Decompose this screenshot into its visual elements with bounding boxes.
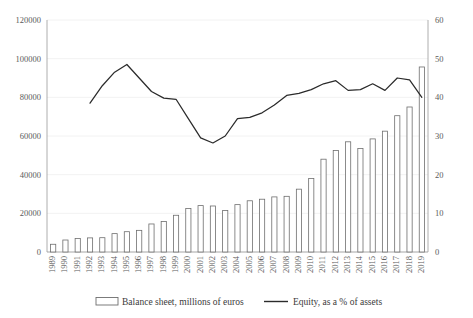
x-tick-label: 1998: [158, 256, 168, 273]
x-tick-label: 1995: [121, 256, 131, 273]
x-tick-label: 2017: [391, 256, 401, 273]
chart-legend: Balance sheet, millions of euros Equity,…: [96, 297, 382, 307]
x-axis-tick-labels: 1989199019911992199319941995199619971998…: [47, 255, 426, 273]
bar: [382, 131, 387, 252]
bar: [395, 116, 400, 252]
bar: [161, 221, 166, 252]
bar: [321, 159, 326, 252]
bar: [358, 149, 363, 252]
x-tick-label: 2003: [219, 256, 229, 273]
x-tick-label: 2011: [317, 256, 327, 273]
secondary-y-tick-label: 40: [435, 92, 444, 102]
bar: [247, 201, 252, 252]
secondary-y-tick-label: 10: [435, 208, 444, 218]
x-tick-label: 1996: [133, 256, 143, 273]
x-tick-label: 2004: [231, 255, 241, 273]
legend-label-equity: Equity, as a % of assets: [293, 297, 382, 307]
x-tick-label: 2010: [305, 256, 315, 273]
x-tick-label: 2013: [342, 256, 352, 273]
bar: [333, 151, 338, 253]
bar: [223, 210, 228, 252]
x-tick-label: 1992: [84, 256, 94, 273]
bar: [87, 238, 92, 252]
combo-chart: 020000400006000080000100000120000 010203…: [0, 0, 473, 318]
bar: [149, 224, 154, 252]
bar: [112, 234, 117, 252]
x-tick-label: 2012: [330, 256, 340, 273]
x-tick-label: 2001: [195, 256, 205, 273]
bar: [346, 142, 351, 252]
bar: [296, 189, 301, 252]
x-tick-label: 1994: [109, 255, 119, 273]
bar: [173, 215, 178, 252]
x-tick-label: 2018: [404, 256, 414, 273]
y-tick-label: 80000: [20, 92, 41, 102]
y-tick-label: 60000: [20, 131, 41, 141]
secondary-y-axis-tick-labels: 0102030405060: [435, 15, 444, 257]
bar: [198, 206, 203, 252]
bar: [124, 232, 129, 252]
x-tick-label: 1997: [145, 256, 155, 273]
chart-container: 020000400006000080000100000120000 010203…: [0, 0, 473, 318]
bar: [284, 196, 289, 252]
bar: [309, 179, 314, 252]
x-tick-label: 2007: [268, 256, 278, 273]
x-tick-label: 1990: [59, 256, 69, 273]
x-tick-label: 2009: [293, 256, 303, 273]
secondary-y-tick-label: 0: [435, 247, 439, 257]
bar: [259, 199, 264, 252]
y-tick-label: 20000: [20, 208, 41, 218]
bar: [210, 206, 215, 252]
bar: [63, 240, 68, 252]
x-tick-label: 2015: [367, 256, 377, 273]
x-tick-label: 1993: [96, 256, 106, 273]
bar: [100, 238, 105, 252]
secondary-y-tick-label: 60: [435, 15, 444, 25]
x-tick-label: 2000: [182, 256, 192, 273]
bar: [235, 205, 240, 252]
y-tick-label: 100000: [16, 54, 42, 64]
y-axis-tick-labels: 020000400006000080000100000120000: [16, 15, 42, 257]
x-tick-label: 1991: [72, 256, 82, 273]
line-series: [90, 64, 422, 142]
bar: [370, 139, 375, 252]
bar: [272, 197, 277, 252]
bar: [137, 230, 142, 252]
secondary-y-tick-label: 20: [435, 170, 444, 180]
y-tick-label: 0: [37, 247, 41, 257]
x-tick-label: 2005: [244, 256, 254, 273]
legend-label-balance-sheet: Balance sheet, millions of euros: [122, 297, 244, 307]
bar-series: [51, 67, 425, 252]
x-tick-label: 1989: [47, 256, 57, 273]
x-tick-label: 2016: [379, 256, 389, 273]
x-tick-label: 2014: [354, 255, 364, 273]
x-tick-label: 2008: [281, 256, 291, 273]
bar: [186, 209, 191, 253]
bar: [407, 107, 412, 252]
x-tick-label: 2019: [416, 256, 426, 273]
bar: [51, 244, 56, 252]
secondary-y-tick-label: 30: [435, 131, 444, 141]
x-tick-label: 2002: [207, 256, 217, 273]
y-tick-label: 120000: [16, 15, 42, 25]
y-tick-label: 40000: [20, 170, 41, 180]
bar: [75, 238, 80, 252]
equity-line: [90, 64, 422, 142]
x-tick-label: 1999: [170, 256, 180, 273]
x-tick-label: 2006: [256, 256, 266, 273]
legend-bar-swatch: [96, 298, 118, 306]
secondary-y-tick-label: 50: [435, 54, 444, 64]
